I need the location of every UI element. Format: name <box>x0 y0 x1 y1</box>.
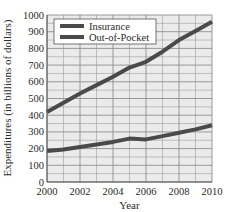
x-axis-ticks: 200020022004200620082010 <box>37 186 223 197</box>
legend: Insurance Out-of-Pocket <box>54 19 156 44</box>
y-tick-label: 100 <box>28 160 44 171</box>
x-tick-label: 2000 <box>37 186 58 197</box>
y-tick-label: 200 <box>28 143 44 154</box>
legend-label-out-of-pocket: Out-of-Pocket <box>89 32 149 43</box>
x-tick-label: 2006 <box>136 186 157 197</box>
y-tick-label: 800 <box>28 43 44 54</box>
line-chart: 01002003004005006007008009001000 2000200… <box>0 0 227 212</box>
x-tick-label: 2002 <box>70 186 91 197</box>
y-tick-label: 1000 <box>23 10 44 21</box>
x-tick-label: 2010 <box>202 186 223 197</box>
y-tick-label: 300 <box>28 126 44 137</box>
legend-label-insurance: Insurance <box>89 21 130 32</box>
x-tick-label: 2004 <box>103 186 125 197</box>
x-axis-label: Year <box>119 199 140 211</box>
y-tick-label: 500 <box>28 93 44 104</box>
y-axis-label: Expenditures (in billions of dollars) <box>1 19 14 176</box>
y-tick-label: 700 <box>28 60 44 71</box>
y-tick-label: 600 <box>28 76 44 87</box>
x-tick-label: 2008 <box>169 186 190 197</box>
y-axis-ticks: 01002003004005006007008009001000 <box>23 10 44 188</box>
y-tick-label: 900 <box>28 26 44 37</box>
y-tick-label: 400 <box>28 110 44 121</box>
